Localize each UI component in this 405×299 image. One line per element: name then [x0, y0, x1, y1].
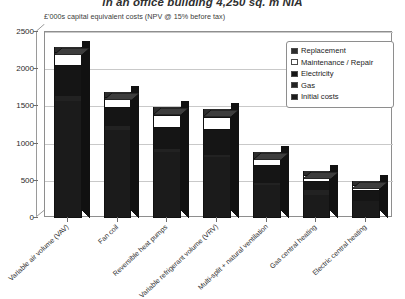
bar-front-face: [153, 107, 181, 218]
bar-segment: [203, 157, 231, 217]
legend-label: Initial costs: [301, 91, 339, 103]
chart-subtitle: £'000s capital equivalent costs (NPV @ 1…: [44, 12, 225, 21]
bar-segment: [153, 128, 181, 150]
bar-segment: [352, 191, 380, 201]
bar-segment: [104, 108, 132, 126]
bar-segment: [203, 155, 231, 158]
x-tick-mark: [67, 217, 68, 222]
bar-front-face: [54, 47, 82, 218]
y-tick-label: 2000: [16, 64, 34, 73]
legend-label: Maintenance / Repair: [301, 57, 373, 69]
bar-front-face: [253, 152, 281, 218]
bar-segment: [203, 117, 231, 130]
x-tick-label: Variable air volume (VAV): [7, 223, 70, 282]
bar-column[interactable]: [203, 32, 231, 218]
bar-segment: [153, 149, 181, 152]
x-tick-mark: [315, 217, 316, 222]
legend-item[interactable]: Maintenance / Repair: [291, 57, 389, 69]
bar-segment: [253, 166, 281, 182]
x-tick-label: Reversible heat pumps: [112, 223, 169, 277]
legend-swatch: [291, 59, 298, 65]
bar-front-face: [203, 109, 231, 218]
x-tick-label: Fan coil: [96, 223, 119, 245]
bar-segment: [54, 101, 82, 217]
legend-item[interactable]: Replacement: [291, 45, 389, 57]
bar-column[interactable]: [104, 32, 132, 218]
bar-side-face: [181, 101, 189, 211]
legend-label: Gas: [301, 80, 315, 92]
legend-swatch: [291, 82, 298, 88]
bar-segment: [104, 130, 132, 217]
legend-label: Electricity: [301, 68, 334, 80]
y-tick-label: 500: [21, 175, 34, 184]
y-tick-mark: [33, 143, 38, 144]
x-tick-label: Electric central heating: [311, 223, 368, 276]
bar-top-face: [203, 103, 239, 110]
x-tick-mark: [266, 217, 267, 222]
y-tick-mark: [33, 217, 38, 218]
y-tick-label: 1500: [16, 101, 34, 110]
bar-segment: [303, 195, 331, 217]
bar-segment: [54, 96, 82, 100]
bar-side-face: [82, 41, 90, 211]
bar-segment: [253, 183, 281, 185]
x-tick-mark: [166, 217, 167, 222]
bar-column[interactable]: [253, 32, 281, 218]
bar-segment: [253, 185, 281, 217]
bar-segment: [104, 126, 132, 130]
x-tick-label: Gas central heating: [269, 223, 318, 270]
bar-top-face: [153, 101, 189, 108]
bar-front-face: [104, 92, 132, 218]
bar-segment: [352, 201, 380, 217]
legend-item[interactable]: Gas: [291, 80, 389, 92]
bar-segment: [153, 152, 181, 217]
legend-swatch: [291, 94, 298, 100]
legend-swatch: [291, 71, 298, 77]
x-axis: Variable air volume (VAV)Fan coilReversi…: [44, 217, 392, 294]
legend-item[interactable]: Initial costs: [291, 91, 389, 103]
legend: ReplacementMaintenance / RepairElectrici…: [286, 41, 394, 108]
legend-label: Replacement: [301, 45, 346, 57]
y-tick-label: 1000: [16, 138, 34, 147]
x-tick-mark: [117, 217, 118, 222]
legend-item[interactable]: Electricity: [291, 68, 389, 80]
legend-swatch: [291, 48, 298, 54]
bar-segment: [303, 190, 331, 194]
x-tick-mark: [216, 217, 217, 222]
bar-column[interactable]: [153, 32, 181, 218]
y-tick-mark: [33, 31, 38, 32]
bar-segment: [54, 66, 82, 97]
bar-segment: [153, 115, 181, 128]
y-tick-mark: [33, 68, 38, 69]
bar-side-face: [231, 103, 239, 211]
bar-top-face: [253, 146, 289, 153]
bar-segment: [203, 130, 231, 155]
y-axis: 05001000150020002500: [0, 24, 44, 224]
chart-title: in an office building 4,250 sq. m NIA: [0, 0, 405, 8]
y-tick-mark: [33, 105, 38, 106]
bar-column[interactable]: [54, 32, 82, 218]
y-tick-mark: [33, 180, 38, 181]
y-tick-label: 2500: [16, 27, 34, 36]
x-tick-mark: [365, 217, 366, 222]
bar-side-face: [131, 86, 139, 211]
bar-top-face: [352, 175, 388, 182]
bar-top-face: [104, 86, 140, 93]
bar-top-face: [303, 165, 339, 172]
bar-top-face: [54, 41, 90, 48]
bar-segment: [303, 182, 331, 190]
